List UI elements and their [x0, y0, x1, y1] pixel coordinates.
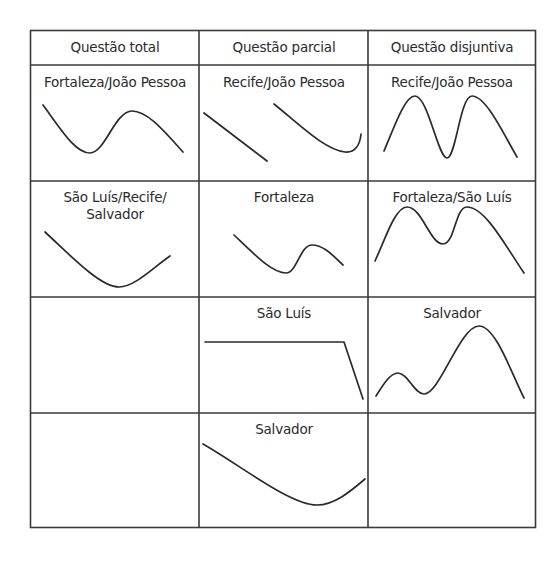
- contour-curve-r3c2: [205, 342, 363, 399]
- contour-curve-r2c3: [375, 207, 524, 273]
- contour-curve-r1c2b: [274, 104, 361, 152]
- contour-curve-r1c1: [43, 105, 183, 153]
- contour-curve-r4c2: [203, 444, 365, 505]
- contour-curve-r3c3: [376, 326, 524, 398]
- contour-curve-r1c3: [384, 96, 517, 158]
- contour-curve-r2c1: [45, 232, 170, 287]
- intonation-table: Questão total Questão parcial Questão di…: [0, 0, 557, 562]
- contour-curve-r1c2a: [204, 113, 267, 161]
- contour-curves: [0, 0, 557, 562]
- contour-curve-r2c2: [234, 235, 343, 273]
